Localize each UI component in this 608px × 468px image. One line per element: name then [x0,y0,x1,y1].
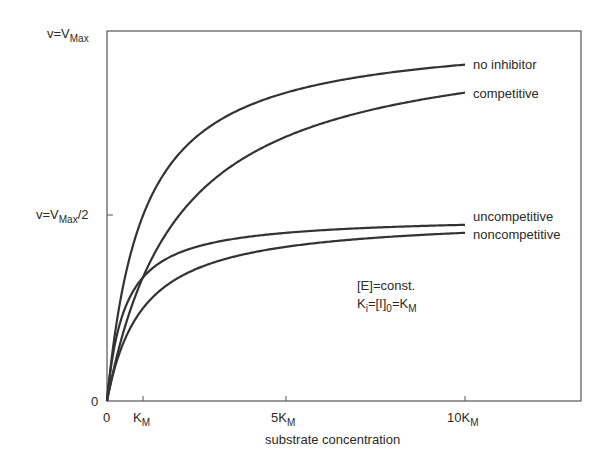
y-label-half-vmax: v=VMax/2 [36,207,89,225]
curve-noncompetitive [107,233,465,401]
x-label-km: KM [133,410,150,428]
y-label-zero: 0 [91,394,98,409]
x-label-5km: 5KM [271,410,295,428]
series-label-noncompetitive: noncompetitive [473,227,560,242]
series-label-no-inhibitor: no inhibitor [473,57,537,72]
annotation-ki: Ki=[I]0=KM [357,296,417,314]
x-label-10km: 10KM [447,410,478,428]
series-label-competitive: competitive [473,86,539,101]
series-label-uncompetitive: uncompetitive [473,209,553,224]
michaelis-menten-chart: v=VMax v=VMax/2 0 0 KM 5KM 10KM substrat… [0,0,608,468]
curves-group [107,65,465,401]
annotation-enzyme-const: [E]=const. [357,278,415,293]
x-axis-title: substrate concentration [265,432,400,447]
x-label-zero: 0 [103,410,110,425]
y-label-vmax: v=VMax [47,26,89,44]
